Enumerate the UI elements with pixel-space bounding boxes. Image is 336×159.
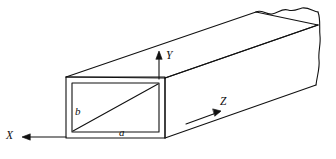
side-face-bottom-edge — [165, 85, 316, 138]
top-face-far-edge — [66, 12, 256, 77]
break-edge-top — [256, 8, 318, 14]
waveguide-drawing — [0, 0, 336, 159]
y-axis-arrowhead — [156, 51, 162, 59]
z-axis-arrowhead — [213, 109, 221, 116]
x-axis-arrowhead — [22, 134, 30, 140]
break-edge-right — [316, 12, 320, 85]
side-face-top-edge — [165, 25, 318, 78]
z-axis-label: Z — [220, 96, 226, 108]
y-axis-label: Y — [166, 50, 172, 62]
dimension-b-label: b — [75, 106, 81, 117]
aperture-diagonal-line — [73, 84, 158, 131]
break-edge-inner-diagonal — [256, 12, 318, 25]
waveguide-figure: X Y Z a b — [0, 0, 336, 159]
dimension-a-label: a — [119, 127, 125, 138]
x-axis-label: X — [6, 130, 13, 142]
